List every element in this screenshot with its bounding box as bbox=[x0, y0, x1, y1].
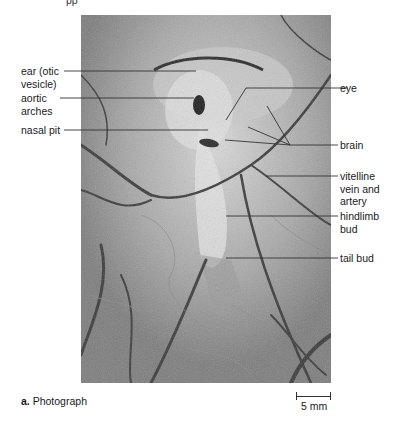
label-brain: brain bbox=[340, 139, 363, 152]
scale-bar: 5 mm bbox=[296, 392, 332, 414]
scale-tick-right bbox=[330, 392, 331, 400]
label-aortic-arches: aortic arches bbox=[21, 92, 53, 117]
label-tail-bud: tail bud bbox=[340, 252, 374, 265]
scale-label: 5 mm bbox=[301, 400, 327, 412]
embryo-photograph bbox=[81, 15, 331, 383]
caption-letter: a. bbox=[21, 395, 30, 407]
scale-line bbox=[297, 396, 330, 397]
caption-text: Photograph bbox=[30, 395, 87, 407]
figure-caption: a. Photograph bbox=[21, 395, 87, 407]
top-cropped-text: pp bbox=[66, 0, 78, 6]
label-nasal-pit: nasal pit bbox=[21, 124, 60, 137]
label-vitelline-vein-artery: vitelline vein and artery bbox=[340, 170, 380, 208]
label-eye: eye bbox=[340, 82, 357, 95]
label-hindlimb-bud: hindlimb bud bbox=[340, 210, 379, 235]
label-ear: ear (otic vesicle) bbox=[21, 65, 59, 90]
